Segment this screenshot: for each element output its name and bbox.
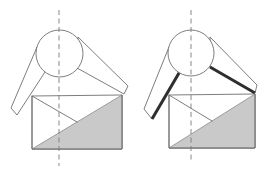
figure-left: [11, 10, 128, 166]
diagram-svg: [0, 0, 265, 170]
figure-right: [144, 10, 257, 163]
right-arm-band: [210, 37, 257, 93]
head-circle: [36, 30, 83, 77]
diagram-canvas: [0, 0, 265, 170]
right-arm-band: [77, 37, 128, 94]
